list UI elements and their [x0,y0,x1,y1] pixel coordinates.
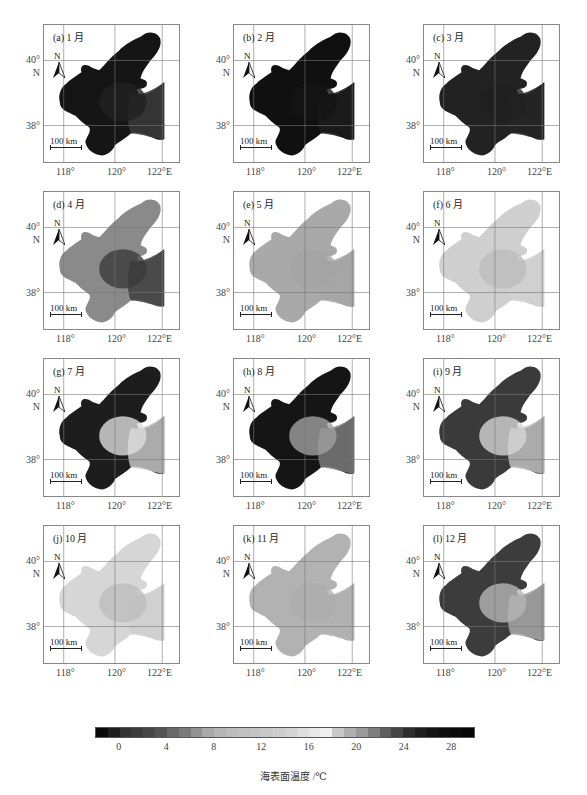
lon-label-118: 118° [436,667,455,678]
map-panel-g: (g) 7 月 40° N 38° 118° 120° 122°E N 100 … [0,334,190,501]
scale-bar: 100 km [430,303,462,320]
scale-bar: 100 km [430,136,462,153]
north-arrow-icon [433,229,445,246]
north-arrow: N [53,552,65,582]
colorbar-swatch [120,728,132,737]
lat-label-38: 38° [18,120,40,131]
colorbar-swatch [427,728,439,737]
colorbar-swatch [96,728,108,737]
lat-label-n: N [208,401,230,412]
colorbar-tick: 8 [211,741,216,752]
sst-zone-center [99,416,146,455]
lat-label-38: 38° [18,454,40,465]
colorbar-swatch [391,728,403,737]
north-arrow: N [53,51,65,81]
north-label: N [244,552,251,562]
north-arrow: N [433,51,445,81]
colorbar-swatch [167,728,179,737]
lat-label-n: N [398,67,420,78]
lon-label-118: 118° [56,667,75,678]
colorbar-swatch [309,728,321,737]
map-panel-k: (k) 11 月 40° N 38° 118° 120° 122°E N 100… [190,501,380,668]
scale-label: 100 km [50,303,82,313]
panel-label: (e) 5 月 [243,196,274,211]
panel-label: (f) 6 月 [433,196,463,211]
panel-label: (j) 10 月 [53,530,87,545]
colorbar-swatch [297,728,309,737]
north-arrow: N [53,218,65,248]
lat-label-40: 40° [398,555,420,566]
lat-label-40: 40° [18,555,40,566]
north-arrow-icon [433,563,445,580]
colorbar-swatch [415,728,427,737]
colorbar [95,727,475,738]
lat-label-n: N [398,568,420,579]
scale-line [50,147,82,153]
lat-label-38: 38° [398,287,420,298]
north-arrow-icon [243,229,255,246]
lat-label-n: N [398,234,420,245]
north-arrow: N [433,385,445,415]
colorbar-swatch [439,728,451,737]
north-arrow-icon [243,62,255,79]
colorbar-tick: 24 [399,741,409,752]
colorbar-swatch [250,728,262,737]
map-panel-h: (h) 8 月 40° N 38° 118° 120° 122°E N 100 … [190,334,380,501]
scale-bar: 100 km [50,303,82,320]
scale-bar: 100 km [240,470,272,487]
scale-label: 100 km [240,470,272,480]
lat-label-40: 40° [398,221,420,232]
lat-label-n: N [208,67,230,78]
map-panel-f: (f) 6 月 40° N 38° 118° 120° 122°E N 100 … [380,167,570,334]
north-label: N [434,51,441,61]
north-label: N [434,218,441,228]
lat-label-40: 40° [208,221,230,232]
colorbar-title: 海表面温度 /℃ [0,768,587,783]
colorbar-tick: 16 [304,741,314,752]
sst-zone-center [479,249,526,288]
panel-label: (a) 1 月 [53,29,84,44]
colorbar-swatch [380,728,392,737]
lat-label-38: 38° [208,454,230,465]
lat-label-n: N [18,234,40,245]
lat-label-40: 40° [18,54,40,65]
lat-label-n: N [18,401,40,412]
panel-label: (d) 4 月 [53,196,85,211]
lon-label-120: 120° [297,667,316,678]
scale-bar: 100 km [240,136,272,153]
scale-line [430,481,462,487]
scale-line [430,648,462,654]
north-arrow: N [433,218,445,248]
panel-label: (h) 8 月 [243,363,275,378]
colorbar-swatch [332,728,344,737]
north-arrow-icon [53,229,65,246]
colorbar-swatch [450,728,462,737]
scale-label: 100 km [240,136,272,146]
lat-label-40: 40° [208,54,230,65]
colorbar-swatch [143,728,155,737]
scale-line [50,648,82,654]
north-arrow-icon [243,563,255,580]
north-arrow: N [243,385,255,415]
scale-line [240,648,272,654]
scale-label: 100 km [430,303,462,313]
colorbar-tick: 20 [351,741,361,752]
scale-line [240,314,272,320]
sst-zone-center [479,583,526,622]
colorbar-swatch [238,728,250,737]
north-arrow-icon [53,563,65,580]
lon-label-118: 118° [246,667,265,678]
scale-label: 100 km [240,303,272,313]
map-panel-b: (b) 2 月 40° N 38° 118° 120° 122°E N 100 … [190,0,380,167]
lat-label-n: N [18,67,40,78]
colorbar-swatch [214,728,226,737]
north-arrow: N [53,385,65,415]
north-label: N [244,51,251,61]
colorbar-swatch [320,728,332,737]
sst-zone-center [289,82,336,121]
north-arrow-icon [433,396,445,413]
lat-label-40: 40° [398,388,420,399]
sst-zone-center [289,583,336,622]
panel-label: (g) 7 月 [53,363,85,378]
colorbar-tick: 0 [116,741,121,752]
